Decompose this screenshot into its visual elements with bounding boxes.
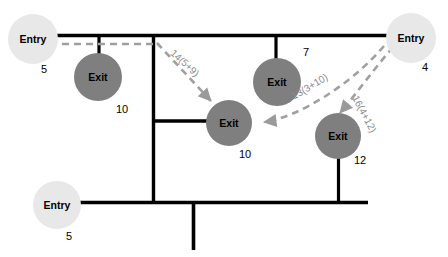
cost-exit-bottom-right: 12 (354, 155, 366, 166)
node-label: Exit (219, 118, 238, 129)
node-entry-top-left[interactable]: Entry (8, 14, 58, 64)
flow-path-14 (157, 43, 211, 101)
node-exit-bottom-right[interactable]: Exit (315, 113, 361, 159)
cost-entry-bottom-left: 5 (66, 231, 72, 242)
node-label: Entry (398, 33, 425, 44)
cost-entry-top-right: 4 (422, 62, 428, 73)
node-label: Exit (267, 77, 286, 88)
cost-exit-top-middle: 7 (303, 47, 309, 58)
node-exit-top-left[interactable]: Exit (74, 53, 122, 101)
node-label: Entry (20, 34, 47, 45)
cost-exit-top-left: 10 (116, 104, 128, 115)
diagram-canvas: Entry Exit Exit Entry Exit Exit Entry 5 … (0, 0, 448, 257)
node-label: Exit (328, 131, 347, 142)
node-label: Entry (44, 200, 71, 211)
cost-entry-top-left: 5 (41, 64, 47, 75)
node-label: Exit (88, 72, 107, 83)
cost-exit-center: 10 (239, 149, 251, 160)
node-exit-center[interactable]: Exit (206, 100, 252, 146)
node-entry-bottom-left[interactable]: Entry (33, 181, 81, 229)
node-entry-top-right[interactable]: Entry (386, 13, 436, 63)
